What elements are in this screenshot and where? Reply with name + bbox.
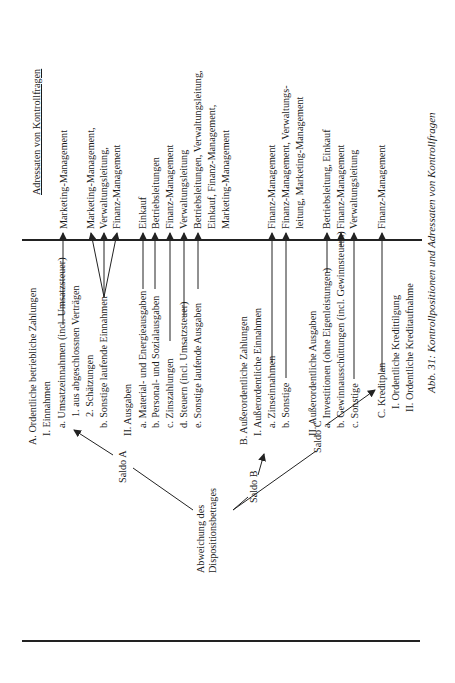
pos-a-i-item-a: a. Umsatzeinnahmen (incl. Umsatzsteuer) [56, 257, 68, 428]
addressee-row: Finanz-Management [164, 145, 176, 229]
addressee-row: Marketing-Management [220, 130, 232, 229]
rotated-figure-page: Abweichung des Dispositionsbetrages Sald… [0, 0, 455, 683]
pos-a-ii-item-a: a. Material- und Energieausgaben [137, 291, 149, 428]
pos-a-i-item-2: 2. Schätzungen [84, 355, 96, 417]
pos-c-item-ii: II. Ordentliche Kreditaufnahme [404, 283, 416, 412]
addressee-row: Betriebsleitungen [150, 157, 162, 229]
pos-a-ii-item-b: b. Personal- und Sozialausgaben [150, 296, 162, 428]
pos-b-title: B. Außerordentliche Zahlungen [238, 316, 250, 445]
pos-b-ii-title: II. Außerordentliche Ausgaben [307, 311, 319, 436]
pos-a-i-title: I. Einnahmen [41, 381, 53, 436]
addressee-row: Finanz-Management [335, 145, 347, 229]
addressee-row: Finanz-Management, Verwaltungs- [280, 85, 292, 229]
addressee-row: Marketing-Management, [85, 127, 97, 229]
addressees-header: Adressaten von Kontrollfragen [31, 69, 43, 195]
pos-b-i-item-b: b. Sonstige [280, 383, 292, 428]
addressee-row: Finanz-Management [376, 145, 388, 229]
pos-c-title: C. Kreditplan [376, 363, 388, 418]
addressee-row: Einkauf [137, 197, 149, 229]
addressee-row: Betriebsleitungen, Verwaltungsleitung, [192, 70, 204, 229]
addressee-row: Finanz-Management [266, 145, 278, 229]
connector-lines [0, 0, 455, 683]
pos-a-i-item-b: b. Sonstige laufende Einnahmen [98, 296, 110, 428]
saldo-b-label: Saldo B [248, 470, 260, 503]
pos-b-ii-item-c: c. Sonstige [349, 383, 361, 428]
pos-a-ii-item-e: e. Sonstige laufende Ausgaben [192, 303, 204, 428]
addressee-row: Einkauf, Finanz-Management, [206, 105, 218, 229]
addressee-row: Marketing-Management [58, 130, 70, 229]
addressee-row: Verwaltungsleitung [348, 150, 360, 229]
pos-b-i-item-a: a. Zinseinnahmen [266, 356, 278, 428]
addressee-row: Finanz-Management [111, 145, 123, 229]
pos-a-i-item-1: 1. aus abgeschlossnen Verträgen [70, 285, 82, 417]
addressee-row: leitung, Marketing-Management [294, 97, 306, 229]
pos-a-ii-title: II. Ausgaben [122, 384, 134, 436]
pos-a-title: A. Ordentliche betriebliche Zahlungen [27, 288, 39, 445]
pos-c-item-i: I. Ordentliche Kredittilgung [390, 295, 402, 409]
saldo-a-label: Saldo A [117, 450, 129, 483]
pos-a-ii-item-c: c. Zinszahlungen [164, 358, 176, 428]
addressee-row: Verwaltungsleitung, [98, 147, 110, 229]
pos-b-ii-item-a: a. Investitionen (ohne Eigenleistungen) [321, 268, 333, 428]
addressee-row: Verwaltungsleitung [178, 150, 190, 229]
pos-b-i-title: I. Außerordentliche Einnahmen [252, 308, 264, 436]
pos-b-ii-item-b: b. Gewinnausschüttungen (incl. Gewinnste… [335, 231, 347, 428]
root-label-line2: Dispositionsbetrages [207, 488, 219, 573]
addressee-row: Betriebsleitung, Einkauf [321, 129, 333, 229]
pos-a-ii-item-d: d. Steuern (incl. Umsatzsteuer) [178, 302, 190, 428]
root-label-line1: Abweichung des [195, 505, 207, 573]
figure-caption: Abb. 31: Kontrollpositionen und Adressat… [425, 112, 437, 393]
